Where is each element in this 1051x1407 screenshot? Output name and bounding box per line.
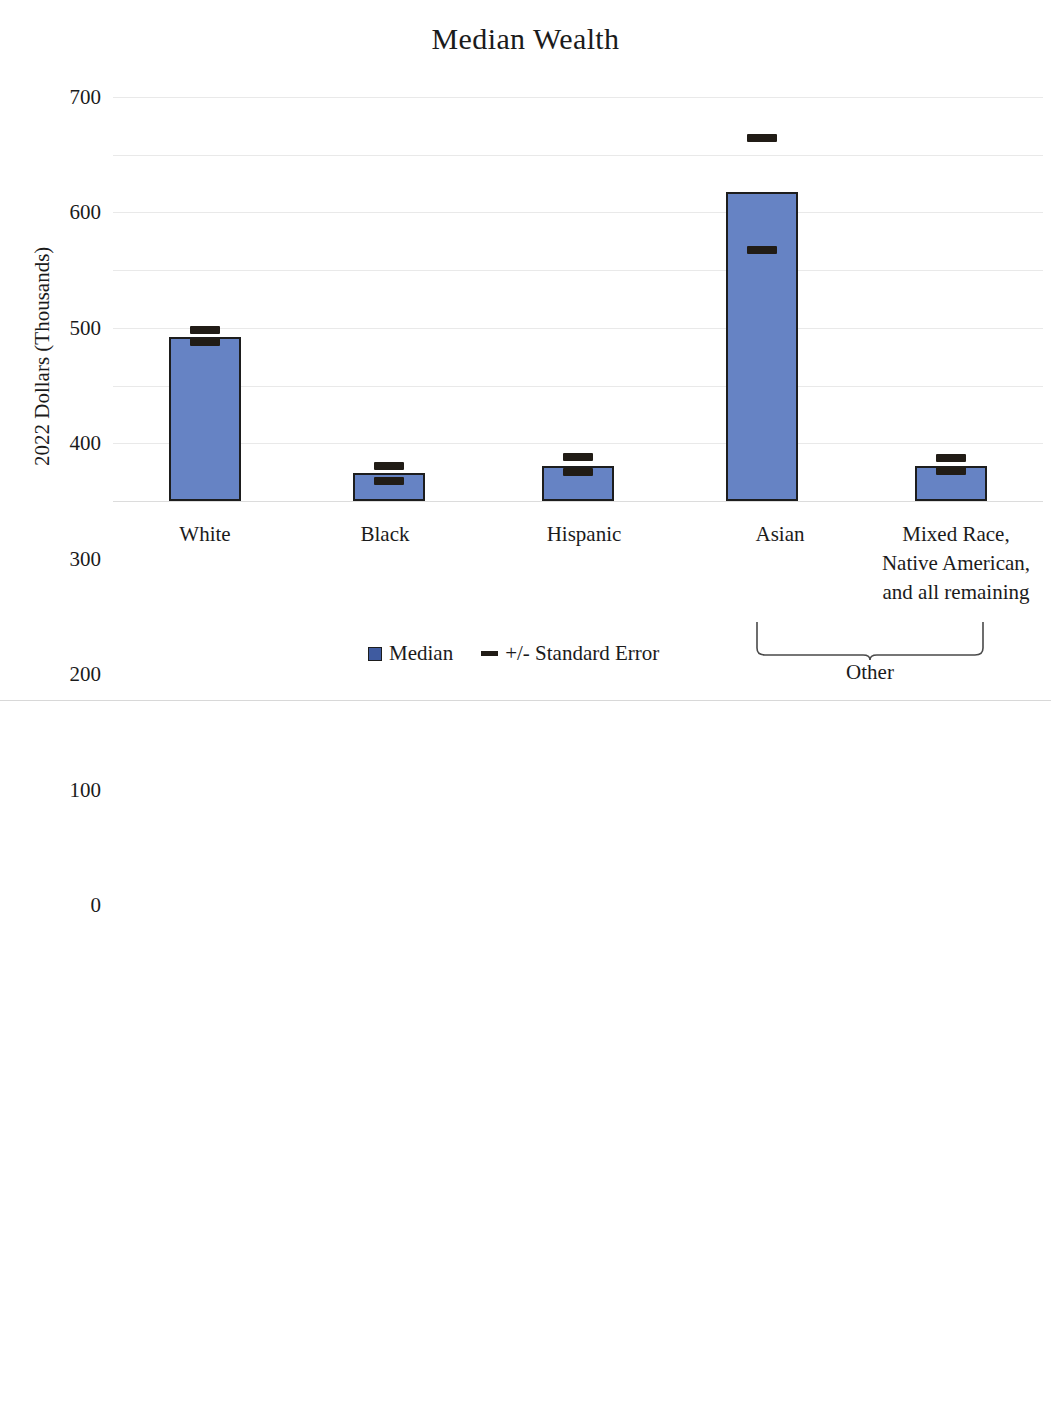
legend-median: Median +/- Standard Error (368, 641, 659, 666)
mean-wealth-chart-panel: Mean Wealth 2022 Dollars (Thousands) 040… (0, 700, 1051, 1407)
median-wealth-chart-panel: Median Wealth 2022 Dollars (Thousands) 0… (0, 0, 1051, 700)
brace-icon (755, 622, 985, 660)
brace-other-median: Other (755, 622, 985, 684)
gridline: 100 (113, 443, 1043, 444)
y-axis-tick-label: 700 (70, 85, 102, 110)
legend-entry-median-series: Median (368, 641, 453, 666)
gridline: 700 (113, 97, 1043, 98)
plot-area-median: 0100200300400500600700 (113, 97, 1043, 501)
error-bar-cap-upper (563, 453, 593, 461)
brace-label-other-median: Other (755, 660, 985, 685)
y-axis-tick-label: 600 (70, 200, 102, 225)
error-bar-cap-upper (936, 454, 966, 462)
gridline: 300 (113, 328, 1043, 329)
error-bar-cap-lower (190, 338, 220, 346)
y-axis-title-median: 2022 Dollars (Thousands) (30, 247, 55, 466)
error-bar-cap-upper (747, 134, 777, 142)
error-bar-cap-upper (190, 326, 220, 334)
gridline: 200 (113, 386, 1043, 387)
gridline: 0 (113, 501, 1043, 502)
error-bar-cap-lower (563, 468, 593, 476)
legend-entry-standard-error-median: +/- Standard Error (481, 641, 659, 666)
gridline: 600 (113, 155, 1043, 156)
x-label-hispanic-median: Hispanic (494, 520, 674, 549)
bar (726, 192, 798, 501)
gridline: 400 (113, 270, 1043, 271)
bar (169, 337, 241, 501)
chart-title-median: Median Wealth (0, 22, 1051, 56)
x-label-other-median: Mixed Race, Native American, and all rem… (862, 520, 1050, 607)
legend-label-standard-error-median: +/- Standard Error (505, 641, 659, 666)
error-bar-cap-lower (747, 246, 777, 254)
y-axis-tick-label: 400 (70, 431, 102, 456)
x-label-black-median: Black (300, 520, 470, 549)
y-axis-tick-label: 500 (70, 315, 102, 340)
legend-dash-icon (481, 651, 498, 656)
error-bar-cap-lower (374, 477, 404, 485)
error-bar-cap-upper (374, 462, 404, 470)
y-axis-tick-label: 200 (70, 662, 102, 687)
x-label-white-median: White (120, 520, 290, 549)
gridline: 500 (113, 212, 1043, 213)
legend-swatch-median-icon (368, 647, 382, 661)
y-axis-tick-label: 300 (70, 546, 102, 571)
legend-label-median: Median (389, 641, 453, 666)
x-label-asian-median: Asian (690, 520, 870, 549)
error-bar-cap-lower (936, 467, 966, 475)
